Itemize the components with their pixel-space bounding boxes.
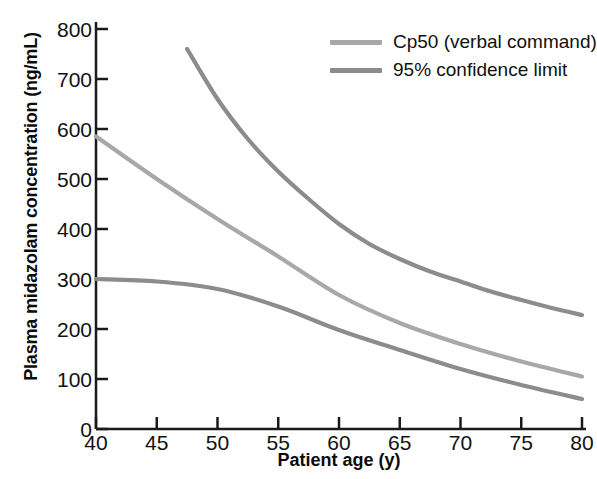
- y-tick-label: 300: [34, 269, 92, 290]
- legend-label: Cp50 (verbal command): [393, 31, 597, 53]
- y-tick-label: 400: [34, 219, 92, 240]
- x-axis-title: Patient age (y): [96, 450, 582, 471]
- y-tick-label: 100: [34, 369, 92, 390]
- chart-figure: 0100200300400500600700800 40455055606570…: [0, 0, 597, 479]
- y-tick-label: 700: [34, 69, 92, 90]
- legend-swatch-icon: [330, 68, 382, 73]
- legend-label: 95% confidence limit: [393, 59, 567, 81]
- y-tick-label: 600: [34, 119, 92, 140]
- y-tick-label: 800: [34, 19, 92, 40]
- chart-legend: Cp50 (verbal command)95% confidence limi…: [330, 28, 597, 84]
- y-axis-title: Plasma midazolam concentration (ng/mL): [21, 0, 42, 422]
- legend-item-1: 95% confidence limit: [330, 56, 597, 84]
- y-axis-ticks: [96, 29, 108, 429]
- y-tick-label: 200: [34, 319, 92, 340]
- legend-item-0: Cp50 (verbal command): [330, 28, 597, 56]
- series-line-upper-confidence-limit: [187, 49, 582, 315]
- data-curves: [96, 49, 582, 399]
- legend-swatch-icon: [330, 40, 382, 45]
- x-axis-ticks: [96, 417, 582, 429]
- series-line-cp50: [96, 137, 582, 377]
- y-tick-label: 500: [34, 169, 92, 190]
